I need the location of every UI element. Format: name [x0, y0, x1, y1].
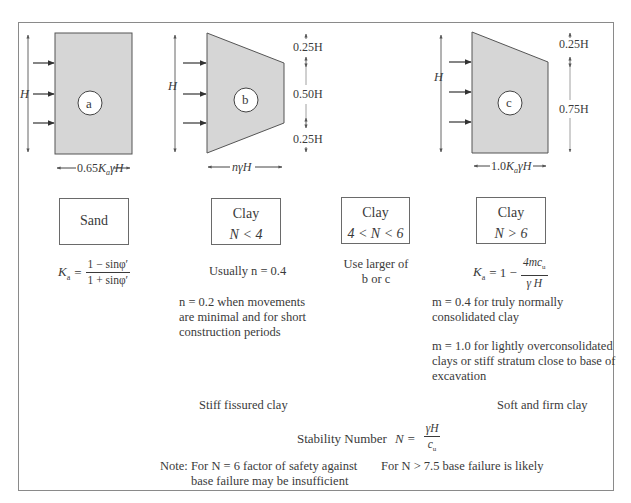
dim-label-c-top: 0.25H	[559, 37, 589, 52]
height-label-b: H	[168, 79, 177, 94]
box-clay-n-lt-4: Clay N < 4	[211, 198, 281, 245]
soft-firm-clay-label: Soft and firm clay	[497, 398, 588, 413]
dim-label-b-bottom: 0.25H	[293, 132, 323, 147]
box-clay-n-4-6: Clay 4 < N < 6	[341, 197, 410, 244]
n-0-2-note: n = 0.2 when movements are minimal and f…	[179, 295, 306, 340]
note-n-7-5: For N > 7.5 base failure is likely	[381, 459, 544, 474]
circle-label-a: a	[86, 96, 92, 111]
box-condition: 4 < N < 6	[342, 225, 409, 242]
usually-n-text: Usually n = 0.4	[209, 264, 286, 279]
use-larger-note: Use larger of b or c	[341, 257, 411, 287]
box-sand: Sand	[59, 198, 129, 245]
box-title: Clay	[212, 205, 280, 222]
box-title: Clay	[342, 204, 409, 221]
stiff-fissured-clay-label: Stiff fissured clay	[199, 398, 288, 413]
dim-label-b-top: 0.25H	[293, 40, 323, 55]
m-1-0-note: m = 1.0 for lightly overconsolidated cla…	[432, 339, 615, 384]
width-label-c: 1.0KaγH	[491, 159, 531, 178]
stability-number-formula: Stability Number N = γHcu	[297, 422, 440, 456]
clay-ka-formula: Ka = 1 − 4mcuγ H	[473, 256, 548, 290]
width-label-a: 0.65KaγH	[77, 161, 123, 180]
box-clay-n-gt-6: Clay N > 6	[476, 197, 546, 244]
box-title: Clay	[477, 204, 545, 221]
note-n-6: Note: For N = 6 factor of safety against…	[160, 459, 357, 489]
height-label-a: H	[20, 87, 29, 102]
sand-ka-formula: Ka = 1 − sinφ′1 + sinφ′	[58, 258, 130, 287]
diagram-a	[28, 33, 132, 168]
dim-label-c-bottom: 0.75H	[559, 102, 589, 117]
circle-label-c: c	[506, 95, 512, 110]
diagram-b	[175, 33, 306, 167]
circle-label-b: b	[242, 92, 249, 107]
box-condition: N > 6	[477, 225, 545, 242]
dim-label-b-mid: 0.50H	[293, 87, 323, 102]
box-condition: N < 4	[212, 226, 280, 243]
box-title: Sand	[60, 212, 128, 229]
width-label-b: nγH	[232, 160, 251, 175]
height-label-c: H	[434, 70, 443, 85]
m-0-4-note: m = 0.4 for truly normally consolidated …	[432, 295, 563, 325]
